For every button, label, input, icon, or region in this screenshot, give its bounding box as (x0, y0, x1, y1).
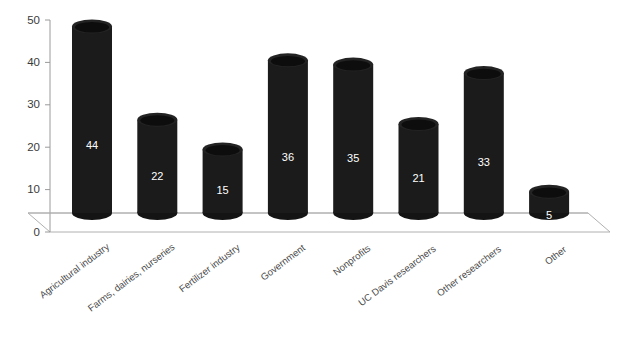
cylinder-body (72, 26, 112, 213)
category-label: Other (543, 243, 569, 267)
bar-value-label: 35 (347, 152, 359, 164)
y-axis: 01020304050 (27, 14, 50, 238)
cylinder-top-inner (402, 120, 436, 130)
y-tick-label: 20 (27, 141, 40, 153)
bars-group (72, 19, 569, 220)
category-label: Other researchers (435, 243, 504, 298)
cylinder-top-inner (467, 69, 501, 79)
cylinder-body (399, 124, 439, 213)
cylinder-top-inner (75, 22, 109, 32)
bar-chart: 01020304050 442215363521335 Agricultural… (0, 0, 626, 350)
floor-plane (28, 213, 610, 232)
cylinder-top-inner (336, 60, 370, 70)
category-label: Agricultural industry (37, 241, 111, 301)
category-label: Fertilizer industry (177, 241, 242, 294)
cylinder-body (203, 149, 243, 213)
category-labels-group: Agricultural industryFarms, dairies, nur… (37, 241, 569, 314)
y-tick-label: 30 (27, 98, 40, 110)
cylinder-body (268, 60, 308, 213)
chart-canvas: 01020304050 442215363521335 Agricultural… (0, 0, 626, 350)
cylinder-body (137, 120, 177, 213)
bar-value-label: 36 (282, 151, 294, 163)
bar-cylinder (137, 113, 177, 220)
bar-cylinder (268, 53, 308, 220)
bar-value-label: 44 (86, 139, 98, 151)
category-label: Nonprofits (331, 242, 373, 277)
y-tick-label: 0 (34, 226, 40, 238)
bar-value-label: 5 (546, 209, 552, 221)
y-tick-label: 10 (27, 183, 40, 195)
bar-cylinder (333, 58, 373, 220)
cylinder-top-inner (532, 187, 566, 197)
y-tick-label: 40 (27, 56, 40, 68)
cylinder-body (333, 65, 373, 213)
bar-cylinder (203, 142, 243, 220)
bar-cylinder (72, 19, 112, 220)
cylinder-top-inner (206, 145, 240, 155)
cylinder-body (464, 73, 504, 213)
bar-value-label: 22 (151, 170, 163, 182)
bar-value-label: 21 (412, 172, 424, 184)
bar-cylinder (464, 66, 504, 220)
bar-value-label: 33 (478, 156, 490, 168)
cylinder-top-inner (271, 56, 305, 66)
category-label: Government (258, 242, 307, 283)
bar-value-label: 15 (216, 184, 228, 196)
y-tick-label: 50 (27, 14, 40, 26)
bar-cylinder (399, 117, 439, 220)
cylinder-top-inner (140, 115, 174, 125)
